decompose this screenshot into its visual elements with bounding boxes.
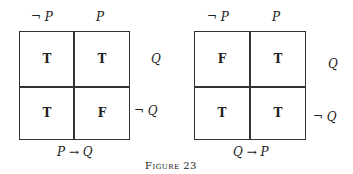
row-label-not-q: ¬ Q bbox=[313, 110, 337, 124]
column-label-p: P bbox=[272, 10, 280, 24]
row-label-not-q: ¬ Q bbox=[134, 104, 158, 118]
diagram-title: Q → P bbox=[233, 145, 269, 159]
figure-caption: Figure 23 bbox=[145, 160, 197, 171]
row-label-q: Q bbox=[328, 57, 338, 71]
cell: F bbox=[75, 86, 129, 140]
cell: T bbox=[251, 32, 305, 86]
column-label-not-p: ¬ P bbox=[207, 10, 229, 24]
cell: T bbox=[75, 32, 129, 86]
row-label-q: Q bbox=[151, 52, 161, 66]
cell: T bbox=[20, 32, 74, 86]
diagram-title: P → Q bbox=[57, 145, 93, 159]
column-label-p: P bbox=[96, 10, 104, 24]
cell: T bbox=[195, 86, 249, 140]
cell: T bbox=[20, 86, 74, 140]
cell: T bbox=[251, 86, 305, 140]
cell: F bbox=[195, 32, 249, 86]
column-label-not-p: ¬ P bbox=[31, 10, 53, 24]
